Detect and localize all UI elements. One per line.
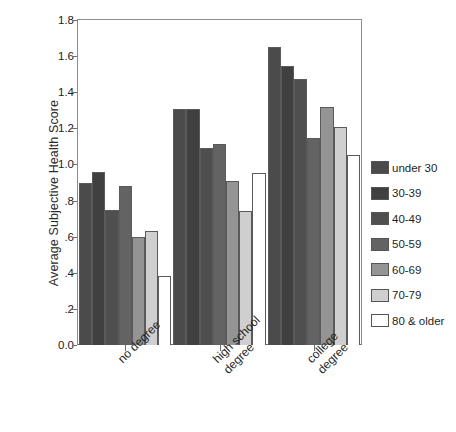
- y-axis-tick-label: 1.6: [34, 50, 74, 62]
- bar-group: [79, 20, 171, 345]
- legend-swatch: [371, 289, 389, 302]
- y-axis-tick-label: 1.2: [34, 122, 74, 134]
- y-axis-tick-mark: [72, 201, 77, 202]
- y-axis-tick-mark: [72, 164, 77, 165]
- bar: [173, 109, 186, 345]
- legend-swatch: [371, 238, 389, 251]
- y-axis-tick-mark: [72, 309, 77, 310]
- legend-label: 60-69: [392, 264, 421, 276]
- legend-label: 80 & older: [392, 315, 444, 327]
- legend-item[interactable]: 40-49: [371, 206, 455, 232]
- bar-group: [268, 20, 360, 345]
- y-axis-tick-label: .6: [34, 231, 74, 243]
- bar: [186, 109, 199, 345]
- bar-group: [173, 20, 265, 345]
- y-axis-tick-mark: [72, 128, 77, 129]
- y-axis-tick-label: .8: [34, 195, 74, 207]
- legend-swatch: [371, 212, 389, 225]
- y-axis-tick-label: 1.0: [34, 158, 74, 170]
- legend-swatch: [371, 263, 389, 276]
- bar: [334, 127, 347, 345]
- y-axis-tick-mark: [72, 237, 77, 238]
- legend: under 3030-3940-4950-5960-6970-7980 & ol…: [371, 155, 455, 334]
- legend-label: 70-79: [392, 289, 421, 301]
- legend-swatch: [371, 161, 389, 174]
- bar: [105, 210, 118, 345]
- legend-swatch: [371, 314, 389, 327]
- y-axis-tick-label: 1.4: [34, 86, 74, 98]
- bar: [307, 138, 320, 345]
- bar: [213, 144, 226, 345]
- bar-chart: Average Subjective Health Score 0.0.2.4.…: [0, 0, 456, 432]
- y-axis-tick-mark: [72, 92, 77, 93]
- bar: [200, 148, 213, 345]
- bar-groups: [78, 20, 361, 345]
- y-axis-tick-label: .4: [34, 267, 74, 279]
- bar: [158, 276, 171, 345]
- y-axis-tick-label: .2: [34, 303, 74, 315]
- legend-item[interactable]: 50-59: [371, 232, 455, 258]
- legend-swatch: [371, 187, 389, 200]
- legend-label: 30-39: [392, 187, 421, 199]
- y-axis-tick-label: 0.0: [34, 339, 74, 351]
- bar: [92, 172, 105, 345]
- bar: [268, 47, 281, 345]
- bar: [347, 155, 360, 345]
- legend-label: under 30: [392, 162, 437, 174]
- y-axis-tick-mark: [72, 20, 77, 21]
- legend-label: 50-59: [392, 238, 421, 250]
- legend-item[interactable]: under 30: [371, 155, 455, 181]
- bar: [294, 79, 307, 345]
- bar: [226, 181, 239, 345]
- y-axis-tick-mark: [72, 56, 77, 57]
- y-axis-tick-mark: [72, 273, 77, 274]
- legend-item[interactable]: 70-79: [371, 283, 455, 309]
- bar: [320, 107, 333, 345]
- legend-item[interactable]: 80 & older: [371, 308, 455, 334]
- bar: [79, 183, 92, 346]
- legend-item[interactable]: 30-39: [371, 181, 455, 207]
- y-axis-tick-label: 1.8: [34, 14, 74, 26]
- legend-label: 40-49: [392, 213, 421, 225]
- y-axis-tick-mark: [72, 345, 77, 346]
- bar: [281, 66, 294, 345]
- legend-item[interactable]: 60-69: [371, 257, 455, 283]
- bar: [119, 186, 132, 345]
